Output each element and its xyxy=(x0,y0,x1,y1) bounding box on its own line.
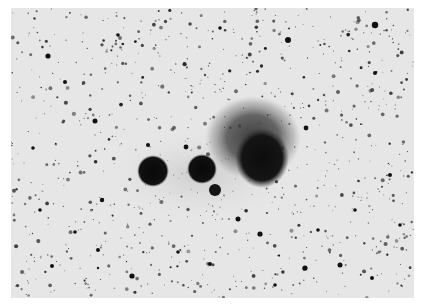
knot-left xyxy=(137,155,169,187)
knot-small xyxy=(209,184,221,196)
knot-middle xyxy=(187,154,217,184)
star-field-photo xyxy=(0,0,421,305)
nebula-core xyxy=(235,128,289,188)
